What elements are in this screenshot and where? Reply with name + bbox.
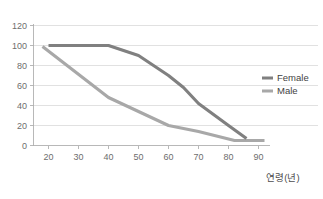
y-tick-label-120: 120 [12, 21, 27, 31]
y-tick-marks-group [30, 26, 34, 146]
y-tick-label-80: 80 [17, 61, 27, 71]
x-axis-title-group: 연령(년) [266, 172, 299, 183]
series-line-female [49, 46, 247, 139]
legend-group: Female Male [262, 72, 309, 96]
y-tick-label-60: 60 [17, 81, 27, 91]
legend-swatch-female [262, 77, 273, 80]
x-tick-label-40: 40 [103, 152, 113, 162]
legend-label-male: Male [277, 85, 298, 96]
chart-canvas: 120 100 80 60 40 20 0 20 30 40 50 60 70 … [0, 0, 323, 199]
x-tick-label-70: 70 [193, 152, 203, 162]
y-tick-label-40: 40 [17, 101, 27, 111]
y-tick-label-20: 20 [17, 121, 27, 131]
legend-label-female: Female [277, 72, 309, 83]
x-tick-label-60: 60 [163, 152, 173, 162]
x-tick-label-30: 30 [73, 152, 83, 162]
axis-lines-group [33, 24, 270, 146]
x-tick-labels-group: 20 30 40 50 60 70 80 90 [43, 152, 263, 162]
y-tick-label-0: 0 [22, 141, 27, 151]
x-tick-label-50: 50 [133, 152, 143, 162]
y-tick-labels-group: 120 100 80 60 40 20 0 [12, 21, 27, 151]
x-tick-label-20: 20 [43, 152, 53, 162]
line-chart-figure: 120 100 80 60 40 20 0 20 30 40 50 60 70 … [0, 0, 323, 199]
x-tick-label-80: 80 [223, 152, 233, 162]
x-tick-marks-group [49, 146, 259, 150]
x-tick-label-90: 90 [253, 152, 263, 162]
gridlines-group [33, 26, 223, 126]
x-axis-title: 연령(년) [266, 172, 299, 183]
legend-swatch-male [262, 90, 273, 93]
data-series-group [43, 46, 265, 141]
y-tick-label-100: 100 [12, 41, 27, 51]
